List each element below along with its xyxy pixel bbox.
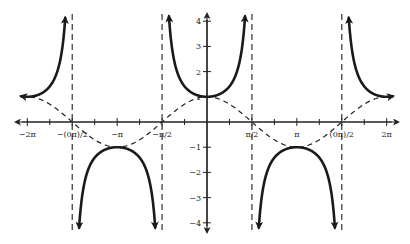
y-tick-label: −1 (189, 143, 201, 152)
y-tick-label: 4 (196, 17, 201, 26)
x-tick-label: π (294, 130, 299, 139)
secant-branch-arrow (21, 18, 65, 97)
y-tick-label: 3 (196, 42, 201, 51)
y-tick-label: 2 (196, 68, 201, 77)
secant-branch-arrow (349, 18, 393, 97)
y-tick-label: −3 (189, 194, 201, 203)
secant-branch-arrow (79, 147, 155, 227)
x-tick-label: 2π (382, 130, 392, 139)
x-tick-label: (0π)/2 (330, 130, 354, 139)
secant-branch (349, 18, 393, 97)
secant-branch (21, 18, 65, 97)
secant-branch (259, 147, 335, 227)
secant-branch-arrow (259, 147, 335, 227)
secant-cosine-graph: −2π−(0π)/2−π−π/2π/2π(0π)/22π4321−1−2−3−4 (0, 0, 410, 244)
secant-branch (79, 147, 155, 227)
x-tick-label: π/2 (245, 130, 258, 139)
y-tick-label: −4 (189, 219, 201, 228)
y-tick-label: −2 (189, 168, 201, 177)
x-tick-label: −π (111, 130, 123, 139)
x-tick-label: −2π (19, 130, 36, 139)
x-tick-label: −π/2 (152, 130, 172, 139)
